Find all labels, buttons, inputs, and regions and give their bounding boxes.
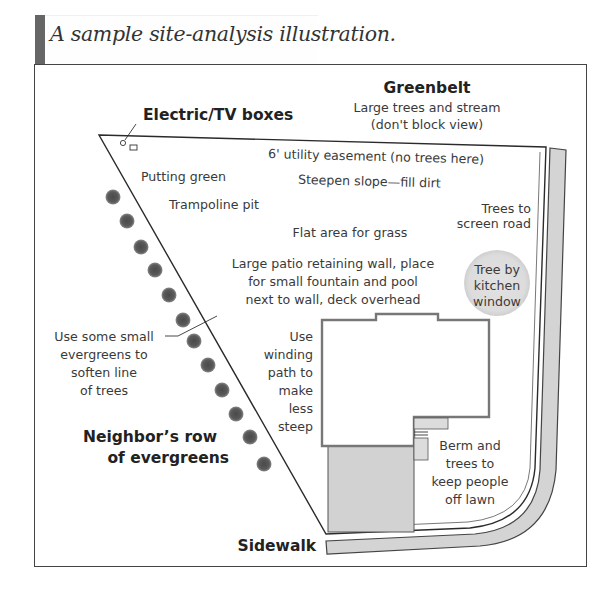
evergreen-icon xyxy=(120,214,135,229)
evergreen-icon xyxy=(257,457,272,472)
berm-label-2: trees to xyxy=(446,456,495,471)
greenbelt-desc-line2: (don't block view) xyxy=(371,117,483,132)
evergreen-icon xyxy=(106,190,121,205)
evergreen-icon xyxy=(243,430,258,445)
winding-path-label-6: steep xyxy=(278,419,313,434)
winding-path-label-2: winding xyxy=(264,347,313,362)
neighbor-evergreens-label-2: of evergreens xyxy=(107,449,229,467)
patio-label-2: for small fountain and pool xyxy=(248,274,418,289)
site-plan-diagram: Greenbelt Large trees and stream (don't … xyxy=(0,0,606,592)
easement-label: 6' utility easement (no trees here) xyxy=(268,146,484,167)
patio-label-1: Large patio retaining wall, place xyxy=(232,256,435,271)
evergreen-icon xyxy=(215,383,230,398)
driveway xyxy=(328,446,414,532)
small-evergreens-leader-line xyxy=(165,316,217,336)
electric-tv-label: Electric/TV boxes xyxy=(143,106,293,124)
small-evergreens-label-4: of trees xyxy=(80,383,128,398)
small-evergreens-label-2: evergreens to xyxy=(60,347,148,362)
kitchen-tree-label-1: Tree by xyxy=(473,262,520,277)
small-evergreens-label-1: Use some small xyxy=(54,329,153,344)
evergreen-icon xyxy=(148,263,163,278)
electric-leader-line xyxy=(125,124,136,140)
steps-upper xyxy=(414,418,448,429)
trampoline-label: Trampoline pit xyxy=(168,197,259,212)
greenbelt-desc-line1: Large trees and stream xyxy=(353,100,500,115)
winding-path-label-5: less xyxy=(289,401,313,416)
steepen-slope-label: Steepen slope—fill dirt xyxy=(298,172,441,191)
kitchen-tree-label-3: window xyxy=(473,294,521,309)
winding-path-label-1: Use xyxy=(289,329,313,344)
evergreen-icon xyxy=(162,288,177,303)
trees-screen-label-1: Trees to xyxy=(481,201,532,216)
neighbor-evergreens-label-1: Neighbor’s row xyxy=(83,428,217,446)
trees-screen-label-2: screen road xyxy=(457,216,531,231)
greenbelt-title: Greenbelt xyxy=(384,79,471,97)
flat-area-label: Flat area for grass xyxy=(293,225,408,240)
small-evergreens-label-3: soften line xyxy=(71,365,137,380)
evergreen-icon xyxy=(229,407,244,422)
electric-box-icon xyxy=(120,140,125,145)
tv-box-icon xyxy=(130,145,137,150)
berm-label-1: Berm and xyxy=(439,438,500,453)
berm-label-4: off lawn xyxy=(445,492,495,507)
house-outline xyxy=(322,314,489,446)
winding-path-label-4: make xyxy=(278,383,313,398)
evergreen-icon xyxy=(134,240,149,255)
evergreen-icon xyxy=(201,358,216,373)
berm-label-3: keep people xyxy=(431,474,508,489)
steps-lower xyxy=(414,438,428,460)
kitchen-tree-label-2: kitchen xyxy=(474,278,520,293)
patio-label-3: next to wall, deck overhead xyxy=(246,292,421,307)
evergreen-icon xyxy=(176,313,191,328)
evergreen-icon xyxy=(187,334,202,349)
putting-green-label: Putting green xyxy=(141,169,226,184)
sidewalk-label: Sidewalk xyxy=(238,537,317,555)
winding-path-label-3: path to xyxy=(268,365,314,380)
